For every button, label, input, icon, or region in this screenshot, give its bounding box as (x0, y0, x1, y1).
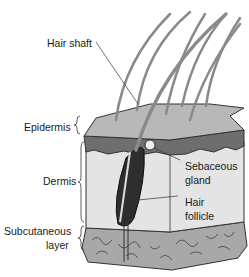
sebaceous-gland (145, 140, 155, 150)
subcutaneous-label-1: Subcutaneous (4, 225, 71, 237)
follicle-label-2: follicle (185, 210, 214, 222)
hair-shaft-label: Hair shaft (47, 37, 92, 49)
sebaceous-label-1: Sebaceous (185, 160, 238, 172)
epidermis-label: Epidermis (24, 121, 71, 133)
follicle-label-1: Hair (185, 196, 204, 208)
dermis-layer (86, 142, 244, 232)
sebaceous-label-2: gland (185, 174, 211, 186)
dermis-label: Dermis (43, 175, 76, 187)
subcutaneous-label-2: layer (46, 239, 69, 251)
